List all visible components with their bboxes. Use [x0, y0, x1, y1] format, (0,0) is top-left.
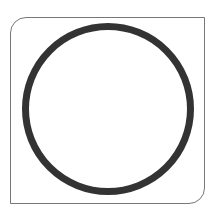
circle-outline-icon [0, 0, 215, 215]
